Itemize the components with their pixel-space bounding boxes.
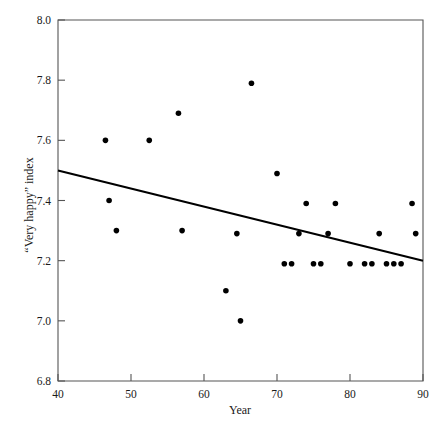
x-tick-label: 40 [52,388,64,400]
data-point [274,171,280,177]
data-point [333,201,339,207]
data-point [391,261,397,267]
data-point [289,261,295,267]
data-point [223,288,229,294]
y-tick-label: 7.6 [37,134,52,146]
scatter-plot-figure: 6.87.07.27.47.67.88.0 405060708090 Year … [0,0,444,429]
data-point [347,261,353,267]
data-point [409,201,415,207]
y-tick-label: 7.4 [37,195,52,207]
y-tick-label: 7.2 [37,255,52,267]
data-point [376,231,382,237]
data-point [398,261,404,267]
y-tick-label: 6.8 [37,375,52,387]
y-tick-label: 8.0 [37,14,52,26]
data-point [296,231,302,237]
data-point [384,261,390,267]
x-tick-label: 60 [198,388,210,400]
data-point [413,231,419,237]
x-tick-label: 70 [271,388,283,400]
data-point [106,198,112,204]
y-tick-label: 7.8 [37,74,52,86]
data-point [179,228,185,234]
data-point [234,231,240,237]
data-point [146,138,152,144]
data-point [103,138,109,144]
data-point [318,261,324,267]
data-point [369,261,375,267]
x-axis-title: Year [229,403,251,417]
x-tick-label: 80 [344,388,356,400]
y-tick-label: 7.0 [37,315,52,327]
data-point [114,228,120,234]
data-point [238,318,244,324]
data-point [282,261,288,267]
data-point [249,80,255,86]
y-axis-title: “Very happy” index [22,157,36,252]
x-tick-label: 50 [125,388,137,400]
data-point [311,261,317,267]
x-tick-label: 90 [417,388,429,400]
data-point [303,201,309,207]
data-point [176,110,182,116]
figure-background [0,0,444,429]
data-point [362,261,368,267]
data-point [325,231,331,237]
